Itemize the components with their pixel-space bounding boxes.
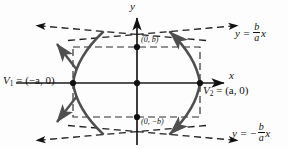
co-vertex-bottom-point [134, 114, 140, 120]
asymptote-negative-label: y = −bax [232, 122, 270, 144]
vertex-left-coordinates: = (−a, 0) [13, 74, 54, 86]
asymptote-negative-lhs: y = − [232, 127, 257, 139]
x-axis-label: x [229, 70, 234, 81]
vertex-left-symbol: V [3, 74, 10, 86]
asymptote-negative-numerator: b [258, 122, 265, 132]
origin-point [134, 80, 140, 86]
asymptote-positive-variable: x [261, 27, 266, 39]
asymptote-negative-variable: x [265, 127, 270, 139]
vertex-left-point [70, 80, 76, 86]
vertex-right-symbol: V [203, 84, 210, 96]
asymptote-negative-upper-left-ray [36, 26, 206, 41]
right-branch-lower [170, 83, 200, 134]
vertex-right-label: V2 = (a, 0) [203, 85, 248, 98]
left-branch-upper-tip [57, 44, 77, 70]
co-vertex-top-point [134, 44, 140, 50]
asymptote-positive-label: y = bax [235, 22, 266, 44]
hyperbola-figure: y x (0, b) (0, −b) V1 = (−a, 0) V2 = (a,… [0, 0, 288, 149]
right-branch-upper [170, 32, 200, 83]
asymptote-positive-lhs: y = [235, 27, 253, 39]
asymptote-positive-denominator: a [253, 32, 260, 43]
left-branch-lower-tip [57, 96, 77, 122]
left-branch-upper [73, 32, 103, 83]
left-branch-lower [73, 83, 103, 134]
asymptote-positive-fraction: ba [253, 22, 260, 44]
asymptote-negative-denominator: a [258, 132, 265, 143]
asymptote-negative-fraction: ba [258, 122, 265, 144]
y-axis-label: y [130, 1, 135, 12]
asymptote-positive-lower-left-ray [36, 126, 206, 141]
asymptote-positive-numerator: b [253, 22, 260, 32]
point-minus-b-label: (0, −b) [141, 118, 164, 126]
vertex-left-label: V1 = (−a, 0) [3, 75, 55, 88]
point-b-label: (0, b) [141, 36, 158, 44]
vertex-right-coordinates: = (a, 0) [213, 84, 248, 96]
asymptote-negative-lower-right-ray [68, 126, 238, 141]
